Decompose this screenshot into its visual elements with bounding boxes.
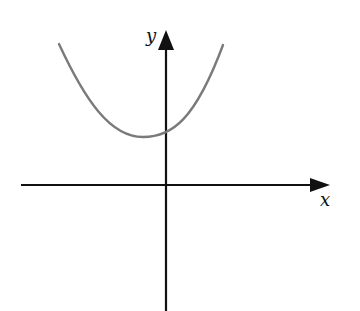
graph-canvas <box>0 0 360 311</box>
parabola-curve <box>59 44 223 137</box>
y-axis-arrow-icon <box>158 30 174 50</box>
x-axis-label: x <box>320 191 330 209</box>
y-axis-label: y <box>146 27 156 45</box>
